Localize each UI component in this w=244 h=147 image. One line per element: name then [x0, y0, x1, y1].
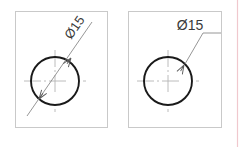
right-panel: Ø15	[129, 12, 222, 128]
right-panel-frame	[129, 12, 222, 128]
left-panel: Ø15	[16, 12, 108, 128]
drawing-svg: Ø15 Ø15	[0, 0, 244, 147]
right-dimension-label: Ø15	[177, 17, 204, 33]
drawing-canvas: Ø15 Ø15	[0, 0, 244, 147]
left-panel-frame	[16, 12, 108, 128]
